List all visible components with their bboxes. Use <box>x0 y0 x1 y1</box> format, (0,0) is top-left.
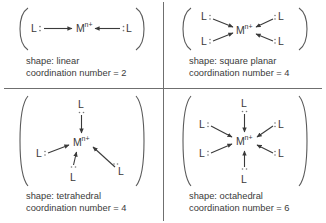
panel-octahedral: L M n+ L L <box>163 89 326 223</box>
square-planar-canvas: L L M n+ L <box>191 7 299 51</box>
ligand-label: L <box>31 22 37 34</box>
metal-charge-label: n+ <box>84 21 92 28</box>
coordination-geometry-figure: L M n+ L shape: linear <box>0 0 326 223</box>
metal-center-label: M <box>236 24 245 36</box>
ligand-label: L <box>199 118 205 130</box>
ligand-label: L <box>241 97 247 109</box>
octahedral-caption: shape: octahedral coordination number = … <box>163 190 326 215</box>
coordination-number-label: coordination number = 6 <box>189 202 326 214</box>
metal-charge-label: n+ <box>244 134 252 141</box>
tetrahedral-complex-diagram: L M n+ L L <box>18 95 146 187</box>
ligand-label: L <box>118 165 124 177</box>
coordination-number-label: coordination number = 2 <box>26 67 163 79</box>
ligand-label: L <box>278 35 284 47</box>
ligand-label: L <box>201 10 207 22</box>
panel-tetrahedral: L M n+ L L <box>0 89 163 223</box>
shape-label: shape: tetrahedral <box>26 190 163 202</box>
ligand-label: L <box>70 171 76 183</box>
linear-complex-diagram: L M n+ L <box>18 7 146 51</box>
linear-caption: shape: linear coordination number = 2 <box>0 55 163 80</box>
square-planar-caption: shape: square planar coordination number… <box>163 55 326 80</box>
ligand-label: L <box>278 10 284 22</box>
metal-center-label: M <box>76 22 85 34</box>
octahedral-complex-diagram: L M n+ L L <box>181 95 309 187</box>
ligand-label: L <box>278 118 284 130</box>
ligand-label: L <box>199 147 205 159</box>
metal-charge-label: n+ <box>244 23 252 30</box>
shape-label: shape: octahedral <box>189 190 326 202</box>
metal-center-label: M <box>236 135 245 147</box>
linear-canvas: L M n+ L <box>28 7 136 51</box>
ligand-label: L <box>78 98 84 110</box>
tetrahedral-canvas: L M n+ L L <box>28 95 136 187</box>
coordination-number-label: coordination number = 4 <box>26 202 163 214</box>
ligand-label: L <box>36 147 42 159</box>
tetrahedral-caption: shape: tetrahedral coordination number =… <box>0 190 163 215</box>
metal-charge-label: n+ <box>81 135 89 142</box>
shape-label: shape: square planar <box>189 55 326 67</box>
metal-center-label: M <box>73 136 82 148</box>
shape-label: shape: linear <box>26 55 163 67</box>
ligand-label: L <box>278 147 284 159</box>
ligand-label: L <box>241 173 247 185</box>
octahedral-canvas: L M n+ L L <box>191 95 299 187</box>
square-planar-complex-diagram: L L M n+ L <box>181 7 309 51</box>
coordination-number-label: coordination number = 4 <box>189 67 326 79</box>
ligand-label: L <box>201 35 207 47</box>
ligand-label: L <box>126 22 132 34</box>
